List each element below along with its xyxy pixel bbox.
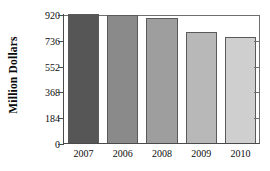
y-axis-tick-labels: 0184368552736920: [24, 15, 62, 144]
y-axis-tick-mark: [58, 118, 64, 119]
y-axis-tick-mark: [58, 67, 64, 68]
y-axis-tick-mark: [58, 92, 64, 93]
y-axis-title-text: Million Dollars: [7, 36, 19, 113]
y-axis-tick-mark: [58, 144, 64, 145]
x-axis-tick-label: 2007: [74, 148, 94, 159]
y-axis-tick-mark: [58, 41, 64, 42]
bar: [68, 14, 99, 143]
y-axis-tick-mark-right: [254, 41, 260, 42]
bar: [186, 32, 217, 143]
y-axis-tick-mark-right: [254, 67, 260, 68]
bar: [225, 37, 256, 143]
y-axis-title: Million Dollars: [2, 0, 24, 150]
plot-area: [64, 15, 260, 144]
y-axis-tick-mark-right: [254, 15, 260, 16]
x-axis-tick-label: 2010: [230, 148, 250, 159]
bar-chart: Million Dollars 0184368552736920 2007200…: [0, 0, 270, 171]
bar: [146, 18, 177, 143]
x-axis-tick-labels: 20072006200820092010: [64, 148, 260, 166]
y-axis-tick-mark-right: [254, 92, 260, 93]
x-axis-tick-label: 2008: [152, 148, 172, 159]
x-axis-tick-label: 2006: [113, 148, 133, 159]
bar: [107, 15, 138, 143]
y-axis-tick-mark: [58, 15, 64, 16]
x-axis-tick-label: 2009: [191, 148, 211, 159]
y-axis-tick-mark-right: [254, 118, 260, 119]
